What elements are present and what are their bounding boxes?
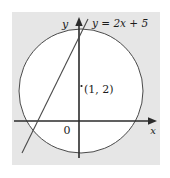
line-equation-label: y = 2x + 5: [91, 17, 148, 29]
point-label: (1, 2): [84, 83, 114, 96]
dot-marker: [80, 85, 82, 87]
figure-container: y x 0 y = 2x + 5 (1, 2): [0, 0, 170, 178]
circle-shape: [19, 29, 143, 153]
y-axis-label: y: [61, 18, 69, 31]
origin-label: 0: [64, 124, 71, 137]
coordinate-geometry-figure: y x 0 y = 2x + 5 (1, 2): [0, 0, 170, 178]
x-axis-label: x: [150, 125, 156, 136]
